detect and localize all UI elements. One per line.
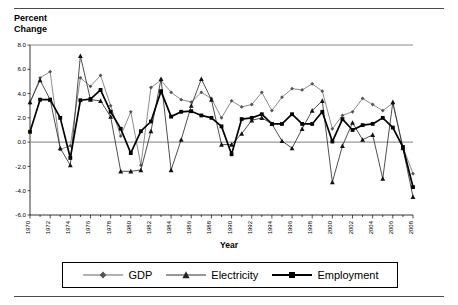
x-tick-label: 1990 bbox=[227, 220, 233, 234]
x-tick-label: 1976 bbox=[85, 220, 91, 234]
x-tick-label: 2004 bbox=[368, 220, 374, 234]
legend-label-employment: Employment bbox=[317, 269, 378, 281]
x-tick-label: 2000 bbox=[327, 220, 333, 234]
y-tick-label: -6.0 bbox=[15, 211, 26, 218]
x-tick-label: 1988 bbox=[206, 220, 212, 234]
triangle-marker-icon bbox=[164, 269, 208, 281]
legend-item-electricity: Electricity bbox=[164, 269, 258, 281]
y-tick-label: 8.0 bbox=[17, 41, 26, 48]
chart-page: Percent Change 8.06.04.02.00.0-2.0-4.0-6… bbox=[0, 0, 458, 305]
y-tick-label: -4.0 bbox=[15, 187, 26, 194]
plot-area: 8.06.04.02.00.0-2.0-4.0-6.01970197219741… bbox=[0, 0, 458, 305]
x-tick-label: 1986 bbox=[186, 220, 192, 234]
x-tick-label: 1982 bbox=[146, 220, 152, 234]
legend-item-employment: Employment bbox=[270, 269, 378, 281]
legend-label-electricity: Electricity bbox=[211, 269, 258, 281]
legend-item-gdp: GDP bbox=[81, 269, 152, 281]
legend-label-gdp: GDP bbox=[128, 269, 152, 281]
y-tick-label: -2.0 bbox=[15, 163, 26, 170]
x-tick-label: 1992 bbox=[247, 220, 253, 234]
x-tick-label: 2006 bbox=[388, 220, 394, 234]
x-tick-label: 1998 bbox=[307, 220, 313, 234]
line-chart: 8.06.04.02.00.0-2.0-4.0-6.01970197219741… bbox=[0, 0, 458, 250]
x-tick-label: 1974 bbox=[65, 220, 71, 234]
x-tick-label: 1978 bbox=[106, 220, 112, 234]
chart-legend: GDP Electricity Employment bbox=[62, 262, 398, 288]
y-tick-label: 0.0 bbox=[17, 138, 26, 145]
y-tick-label: 4.0 bbox=[17, 90, 26, 97]
y-tick-label: 6.0 bbox=[17, 65, 26, 72]
x-axis-title: Year bbox=[0, 240, 458, 250]
x-tick-label: 2008 bbox=[408, 220, 414, 234]
x-tick-label: 2002 bbox=[348, 220, 354, 234]
diamond-marker-icon bbox=[81, 269, 125, 281]
x-tick-label: 1980 bbox=[126, 220, 132, 234]
square-marker-icon bbox=[270, 269, 314, 281]
y-tick-label: 2.0 bbox=[17, 114, 26, 121]
x-tick-label: 1984 bbox=[166, 220, 172, 234]
x-tick-label: 1994 bbox=[267, 220, 273, 234]
x-tick-label: 1996 bbox=[287, 220, 293, 234]
series-employment bbox=[28, 88, 415, 189]
x-tick-label: 1970 bbox=[25, 220, 31, 234]
series-gdp bbox=[28, 70, 415, 176]
x-tick-label: 1972 bbox=[45, 220, 51, 234]
